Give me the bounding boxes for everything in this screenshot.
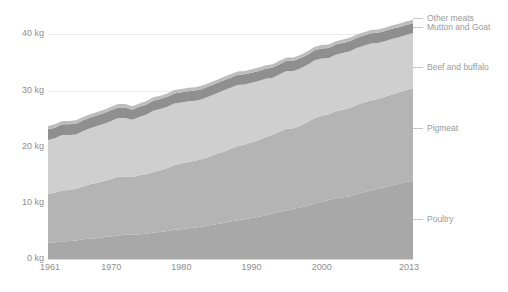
x-tick-label-1970: 1970 (101, 262, 121, 272)
y-tick-label-20: 20 kg (22, 142, 44, 151)
legend-entry-poultry[interactable]: Poultry (413, 214, 453, 224)
y-tick-label-10: 10 kg (22, 198, 44, 207)
y-axis: 0 kg10 kg20 kg30 kg40 kg (0, 0, 44, 292)
chart-legend: Other meatsMutton and GoatBeef and buffa… (413, 0, 508, 292)
legend-entry-pigmeat[interactable]: Pigmeat (413, 123, 458, 133)
x-tick-label-1980: 1980 (171, 262, 191, 272)
legend-label: Pigmeat (427, 123, 458, 133)
x-axis-line (48, 259, 413, 260)
x-tick-label-1990: 1990 (242, 262, 262, 272)
legend-label: Mutton and Goat (427, 22, 490, 32)
plot-area (48, 12, 413, 259)
y-tick-label-30: 30 kg (22, 86, 44, 95)
legend-leader-line-icon (413, 27, 423, 28)
x-tick-label-1961: 1961 (40, 262, 60, 272)
legend-leader-line-icon (413, 128, 423, 129)
legend-entry-mutton-and-goat[interactable]: Mutton and Goat (413, 22, 490, 32)
legend-leader-line-icon (413, 219, 423, 220)
x-tick-label-2000: 2000 (312, 262, 332, 272)
legend-leader-line-icon (413, 67, 423, 68)
legend-entry-beef-and-buffalo[interactable]: Beef and buffalo (413, 62, 489, 72)
plot-svg (48, 12, 413, 259)
legend-leader-line-icon (413, 18, 423, 19)
legend-label: Poultry (427, 214, 453, 224)
legend-label: Beef and buffalo (427, 62, 489, 72)
y-tick-label-40: 40 kg (22, 29, 44, 38)
stacked-area-chart: 0 kg10 kg20 kg30 kg40 kg 196119701980199… (0, 0, 508, 292)
